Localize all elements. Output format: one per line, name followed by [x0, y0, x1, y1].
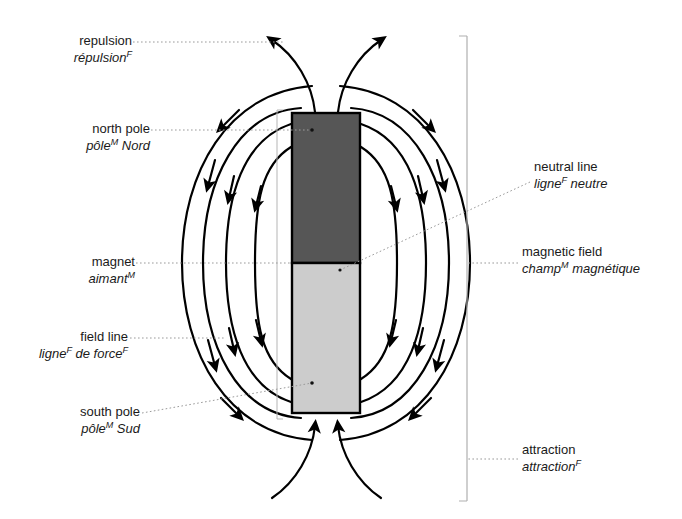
label-attraction-fr: attractionF: [522, 458, 581, 475]
magnet-north-pole-block: [292, 113, 360, 263]
field-line-left-3-arrow-a: [208, 160, 215, 186]
field-line-top-open-left: [272, 40, 315, 112]
field-line-right-3-arrow-a: [437, 160, 444, 186]
label-attraction: attraction attractionF: [522, 441, 581, 475]
label-magnet: magnet aimantM: [20, 253, 135, 287]
label-magnet-en: magnet: [20, 253, 135, 270]
label-magnetic-field-en: magnetic field: [522, 243, 640, 260]
label-repulsion-fr: répulsionF: [20, 49, 132, 66]
field-line-right-2: [361, 124, 426, 402]
label-neutral-line-fr: ligneF neutre: [534, 175, 607, 192]
label-north-pole: north pole pôleM Nord: [20, 120, 150, 154]
label-magnet-fr: aimantM: [20, 270, 135, 287]
label-south-pole-en: south pole: [20, 403, 140, 420]
magnetic-field-bracket-line: [459, 36, 467, 501]
label-north-pole-fr: pôleM Nord: [20, 137, 150, 154]
leader-neutral-line: [340, 182, 530, 270]
label-south-pole-fr: pôleM Sud: [20, 420, 140, 437]
leader-dot-north-pole: [310, 128, 314, 132]
label-attraction-en: attraction: [522, 441, 581, 458]
label-magnetic-field: magnetic field champM magnétique: [522, 243, 640, 277]
label-magnetic-field-fr: champM magnétique: [522, 260, 640, 277]
magnetic-field-bracket: [459, 36, 467, 501]
label-repulsion: repulsion répulsionF: [20, 32, 132, 66]
label-repulsion-en: repulsion: [20, 32, 132, 49]
label-field-line-en: field line: [8, 328, 128, 345]
label-neutral-line: neutral line ligneF neutre: [534, 158, 607, 192]
label-north-pole-en: north pole: [20, 120, 150, 137]
label-field-line: field line ligneF de forceF: [8, 328, 128, 362]
leader-dot-south-pole: [310, 381, 314, 385]
label-neutral-line-en: neutral line: [534, 158, 607, 175]
field-line-right-3-arrow-b: [437, 340, 444, 366]
field-line-left-3-arrow-b: [208, 340, 215, 366]
field-line-top-open-right: [338, 40, 381, 112]
leader-dot-neutral-line: [338, 268, 341, 271]
magnet-south-pole-block: [292, 263, 360, 413]
label-south-pole: south pole pôleM Sud: [20, 403, 140, 437]
label-field-line-fr: ligneF de forceF: [8, 345, 128, 362]
bar-magnet: [292, 113, 360, 413]
field-line-right-1: [361, 147, 397, 379]
